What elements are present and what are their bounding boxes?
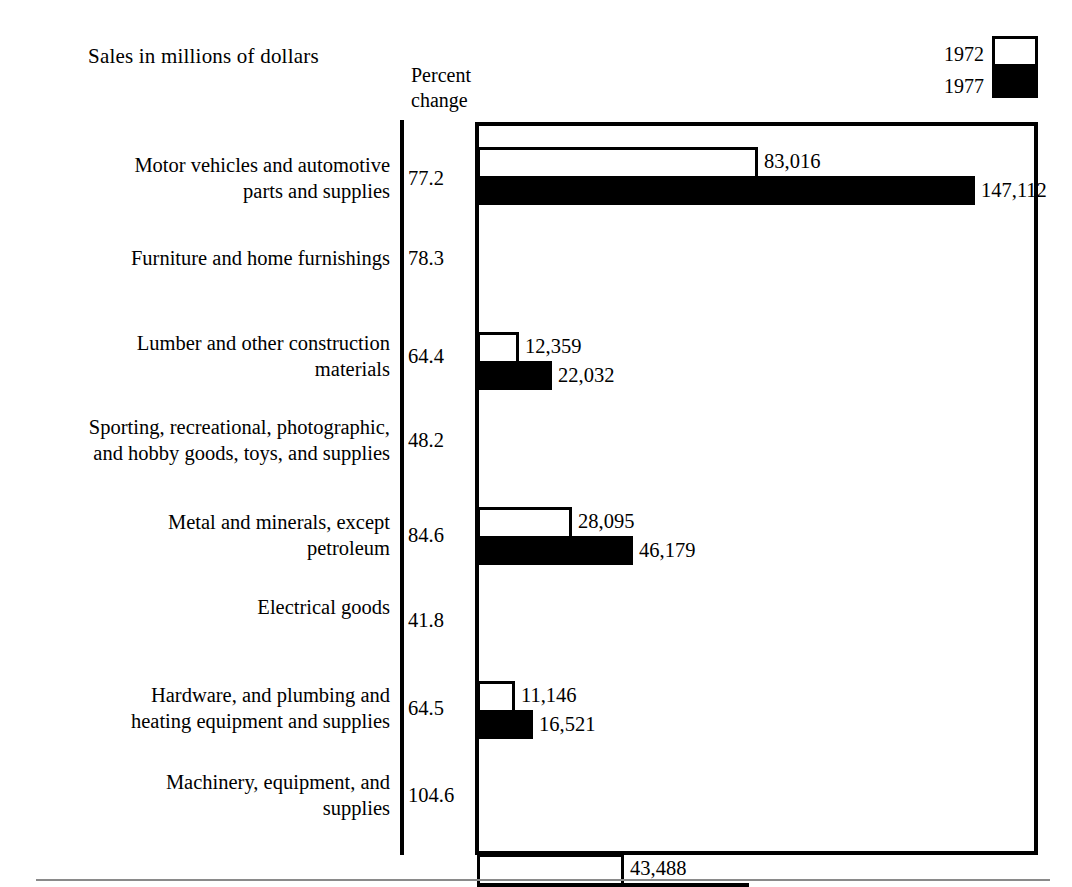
legend: 1972 1977	[930, 38, 992, 102]
category-label: Motor vehicles and automotive parts and …	[10, 152, 390, 204]
chart-row: Motor vehicles and automotive parts and …	[0, 124, 1072, 214]
legend-label-1977: 1977	[930, 76, 992, 96]
bar-1977	[477, 883, 749, 887]
page-title: Sales in millions of dollars	[88, 44, 319, 69]
chart-row: Metal and minerals, except petroleum84.6…	[0, 482, 1072, 572]
legend-swatch-group	[992, 36, 1038, 98]
category-label: Electrical goods	[10, 594, 390, 620]
white-square-icon	[995, 39, 1035, 67]
chart-row: Hardware, and plumbing and heating equip…	[0, 657, 1072, 747]
black-square-icon	[995, 67, 1035, 95]
bar-group: 43,48880,298	[477, 854, 811, 887]
legend-item-1972: 1972	[930, 38, 992, 70]
percent-change-header-line2: change	[411, 88, 471, 113]
category-label: Furniture and home furnishings	[10, 245, 390, 271]
percent-change-value: 48.2	[408, 427, 472, 453]
category-label: Hardware, and plumbing and heating equip…	[10, 682, 390, 734]
legend-label-1972: 1972	[930, 44, 992, 64]
chart-row: Sporting, recreational, photographic, an…	[0, 394, 1072, 484]
percent-change-value: 78.3	[408, 245, 472, 271]
bar-row: 147,112	[477, 176, 1047, 205]
footer-divider	[36, 879, 1050, 881]
percent-change-value: 41.8	[408, 607, 472, 633]
percent-change-value: 64.5	[408, 695, 472, 721]
chart-row: Electrical goods41.849,34969,999	[0, 572, 1072, 662]
bar-value-label: 147,112	[975, 180, 1047, 201]
chart-row: Lumber and other construction materials6…	[0, 307, 1072, 397]
percent-change-header: Percent change	[411, 63, 471, 113]
chart-row: Machinery, equipment, and supplies104.68…	[0, 744, 1072, 834]
bar-value-label: 83,016	[758, 151, 820, 172]
category-label: Metal and minerals, except petroleum	[10, 509, 390, 561]
chart-page: Sales in millions of dollars Percent cha…	[0, 0, 1072, 887]
percent-change-value: 64.4	[408, 343, 472, 369]
chart-row: Furniture and home furnishings78.312,359…	[0, 220, 1072, 310]
bar-row: 83,016	[477, 147, 1047, 176]
bar-row: 80,298	[477, 883, 811, 887]
percent-change-value: 84.6	[408, 522, 472, 548]
bar-group: 83,016147,112	[477, 147, 1047, 205]
legend-item-1977: 1977	[930, 70, 992, 102]
chart-rows: Motor vehicles and automotive parts and …	[0, 122, 1072, 855]
category-label: Lumber and other construction materials	[10, 330, 390, 382]
percent-change-header-line1: Percent	[411, 63, 471, 88]
percent-change-value: 104.6	[408, 782, 472, 808]
category-label: Sporting, recreational, photographic, an…	[10, 414, 390, 466]
bar-value-label: 43,488	[624, 858, 686, 879]
bar-1972	[477, 147, 758, 176]
category-label: Machinery, equipment, and supplies	[10, 769, 390, 821]
bar-1977	[477, 176, 975, 205]
percent-change-value: 77.2	[408, 165, 472, 191]
